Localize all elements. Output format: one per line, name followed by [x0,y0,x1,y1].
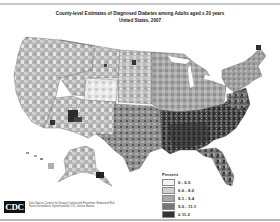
us-choropleth-map [0,24,280,199]
region-plains [118,50,152,104]
top-rule [0,3,280,5]
legend-item: 0 - 6.5 [162,178,196,186]
legend-swatch [162,179,175,186]
legend-item: 8.1 - 9.4 [162,194,196,202]
legend-item: 9.5 - 11.1 [162,202,196,210]
legend-swatch [162,203,175,210]
region-florida [196,148,234,186]
legend-label: 0 - 6.5 [178,180,190,185]
data-source-note: Data Source: Centers for Disease Control… [29,202,119,209]
legend: Percent 0 - 6.5 6.6 - 8.0 8.1 - 9.4 9.5 … [162,172,196,218]
region-northeast [222,48,266,92]
inset-alaska [58,146,112,186]
inset-hawaii [26,152,54,169]
legend-item: 6.6 - 8.0 [162,186,196,194]
legend-label: 6.6 - 8.0 [178,188,194,193]
region-colorado [84,78,118,102]
legend-swatch [162,211,175,218]
legend-swatch [162,195,175,202]
bottom-rule [0,219,280,221]
legend-label: 9.5 - 11.1 [178,204,196,209]
legend-label: ≥ 11.2 [178,212,190,217]
legend-label: 8.1 - 9.4 [178,196,194,201]
legend-item: ≥ 11.2 [162,210,196,218]
cdc-logo: CDC [4,201,25,213]
map-title: County-level Estimates of Diagnosed Diab… [0,11,280,17]
legend-swatch [162,187,175,194]
